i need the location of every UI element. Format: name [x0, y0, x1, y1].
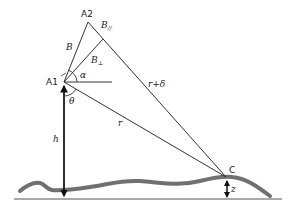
- label-r: r: [118, 118, 123, 128]
- line-r-plus-delta: [88, 22, 226, 177]
- point-A1-label: A1: [46, 77, 58, 87]
- label-B: B: [65, 42, 73, 52]
- label-z: z: [230, 184, 236, 194]
- label-B-parallel: B//: [100, 20, 113, 31]
- label-r-plus-delta: r+δ: [148, 79, 165, 89]
- label-B-perp: B⊥: [90, 55, 103, 66]
- diagram-svg: A2 A1 C B B// B⊥ α θ h r r+δ z: [0, 0, 290, 209]
- label-theta: θ: [69, 96, 75, 106]
- point-C-label: C: [229, 165, 235, 175]
- point-A2-label: A2: [81, 9, 93, 19]
- theta-arc: [64, 89, 76, 96]
- line-r: [64, 82, 226, 177]
- label-h: h: [53, 134, 59, 144]
- label-alpha: α: [80, 70, 86, 80]
- geometry-diagram: A2 A1 C B B// B⊥ α θ h r r+δ z: [0, 0, 290, 209]
- angle-tick: [61, 73, 66, 76]
